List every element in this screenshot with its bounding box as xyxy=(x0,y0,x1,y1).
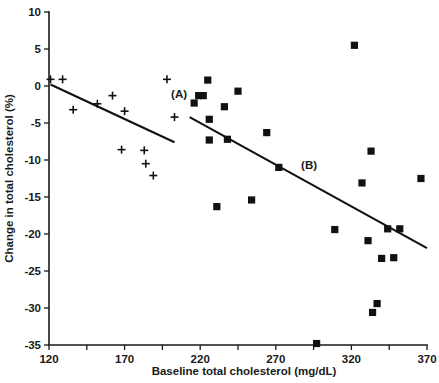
y-tick-label: -30 xyxy=(24,302,41,314)
data-point-cross xyxy=(109,92,117,100)
data-point-square xyxy=(417,175,424,182)
group-label-a: (A) xyxy=(171,88,187,100)
data-point-cross xyxy=(118,146,126,154)
data-point-square xyxy=(206,116,213,123)
y-tick-label: 0 xyxy=(35,80,41,92)
x-tick-label: 220 xyxy=(191,353,210,365)
data-point-square xyxy=(213,203,220,210)
y-tick-label: -15 xyxy=(24,191,41,203)
data-point-square xyxy=(364,237,371,244)
data-point-square xyxy=(313,340,320,347)
data-point-square xyxy=(248,196,255,203)
x-tick-label: 370 xyxy=(417,353,436,365)
group-label-b: (B) xyxy=(301,159,317,171)
data-point-square xyxy=(367,148,374,155)
data-point-square xyxy=(384,225,391,232)
x-tick-label: 120 xyxy=(39,353,58,365)
data-point-square xyxy=(358,179,365,186)
data-point-square xyxy=(275,164,282,171)
x-tick-label: 270 xyxy=(266,353,285,365)
data-point-square xyxy=(224,136,231,143)
data-point-cross xyxy=(149,172,157,180)
data-point-square xyxy=(204,76,211,83)
data-point-square xyxy=(378,255,385,262)
data-point-square xyxy=(234,88,241,95)
data-point-square xyxy=(221,103,228,110)
chart-canvas: 1050-5-10-15-20-25-30-351201702202703203… xyxy=(0,0,439,383)
y-tick-label: -10 xyxy=(24,154,41,166)
x-tick-label: 170 xyxy=(115,353,134,365)
scatter-chart: 1050-5-10-15-20-25-30-351201702202703203… xyxy=(0,0,439,383)
data-point-cross xyxy=(140,146,148,154)
data-point-cross xyxy=(69,106,77,114)
data-point-square xyxy=(206,136,213,143)
data-point-square xyxy=(374,300,381,307)
x-axis-title: Baseline total cholesterol (mg/dL) xyxy=(152,365,337,377)
data-point-square xyxy=(191,99,198,106)
data-point-square xyxy=(396,225,403,232)
y-tick-label: 10 xyxy=(28,6,41,18)
y-axis-title: Change in total cholesterol (%) xyxy=(3,94,15,263)
y-tick-label: -25 xyxy=(24,265,41,277)
axis-lines xyxy=(49,12,427,345)
data-point-square xyxy=(331,226,338,233)
y-tick-label: -5 xyxy=(31,117,42,129)
data-point-cross xyxy=(163,75,171,83)
data-point-cross xyxy=(170,113,178,121)
x-tick-label: 320 xyxy=(342,353,361,365)
y-tick-label: 5 xyxy=(35,43,42,55)
data-point-cross xyxy=(121,107,129,115)
data-point-square xyxy=(200,92,207,99)
data-point-square xyxy=(369,309,376,316)
data-point-cross xyxy=(59,75,67,83)
data-point-cross xyxy=(142,160,150,168)
data-point-square xyxy=(351,42,358,49)
data-point-square xyxy=(390,254,397,261)
data-point-cross xyxy=(47,75,55,83)
y-tick-label: -20 xyxy=(24,228,41,240)
data-point-square xyxy=(263,129,270,136)
y-tick-label: -35 xyxy=(24,339,41,351)
